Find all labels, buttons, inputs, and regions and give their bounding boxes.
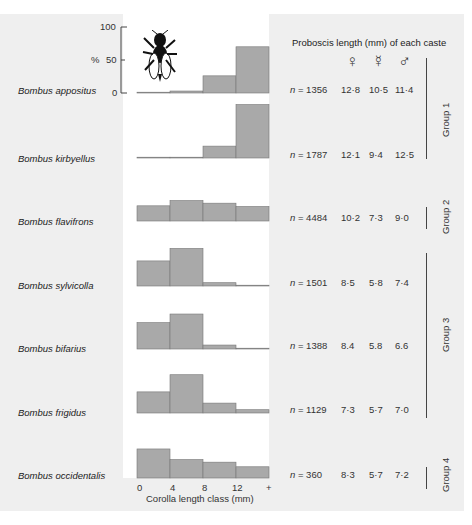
proboscis-value: 10·5 (369, 84, 388, 95)
proboscis-value: 7·0 (395, 404, 409, 415)
histogram-bar (236, 410, 269, 413)
proboscis-value: 12·1 (341, 149, 360, 160)
histogram-bar (236, 47, 269, 93)
proboscis-value: 11·4 (395, 84, 413, 95)
sample-size: n = 1356 (290, 84, 327, 95)
histogram-bar (170, 157, 203, 158)
histogram-bar (137, 92, 170, 93)
x-tick: 0 (137, 482, 142, 493)
proboscis-value: 7·3 (341, 404, 355, 415)
worker-symbol: ☿ (372, 52, 385, 72)
histogram-bar (137, 323, 170, 349)
proboscis-value: 12·8 (341, 84, 360, 95)
histogram-bar (137, 206, 170, 221)
species-label: Bombus kirbyellus (18, 153, 95, 164)
proboscis-value: 7·3 (369, 212, 383, 223)
species-label: Bombus flavifrons (18, 216, 94, 227)
histogram-bar (236, 348, 269, 349)
group-2-bracket (426, 207, 427, 229)
table-header: Proboscis length (mm) of each caste (292, 37, 446, 48)
queen-symbol: ♀ (346, 52, 359, 72)
group-4-bracket (426, 467, 427, 489)
x-tick: + (266, 482, 272, 493)
histogram-bar (236, 467, 269, 478)
proboscis-value: 8·3 (341, 469, 355, 480)
histogram-bar (203, 345, 236, 349)
sample-size: n = 4484 (290, 212, 327, 223)
histogram-bar (137, 392, 170, 413)
x-axis-label: Corolla length class (mm) (146, 493, 254, 504)
sample-size: n = 1388 (290, 340, 327, 351)
histogram-bar (203, 403, 236, 413)
sample-size: n = 1501 (290, 277, 327, 288)
histogram-bar (170, 201, 203, 221)
group-3-bracket (426, 253, 427, 418)
histogram-bar (137, 261, 170, 286)
proboscis-value: 5·8 (369, 277, 383, 288)
proboscis-value: 10·2 (341, 212, 360, 223)
species-label: Bombus sylvicolla (18, 280, 94, 291)
proboscis-value: 5·7 (369, 469, 383, 480)
histogram-bar (137, 157, 170, 158)
proboscis-value: 9·0 (395, 212, 409, 223)
histogram-bar (203, 146, 236, 158)
proboscis-value: 9·4 (369, 149, 383, 160)
species-label: Bombus frigidus (18, 407, 86, 418)
histogram-bar (203, 462, 236, 478)
group-4-label: Group 4 (440, 458, 451, 492)
histogram-bar (170, 91, 203, 93)
sample-size: n = 1129 (290, 404, 327, 415)
histogram-bar (170, 248, 203, 286)
proboscis-value: 7·2 (395, 469, 409, 480)
proboscis-value: 5·7 (369, 404, 383, 415)
sample-size: n = 1787 (290, 149, 327, 160)
x-tick: 4 (170, 482, 175, 493)
group-1-bracket (426, 58, 427, 159)
proboscis-value: 5.8 (369, 340, 382, 351)
histogram-bar (236, 285, 269, 286)
histogram-bar (203, 283, 236, 286)
species-label: Bombus appositus (18, 85, 96, 96)
male-symbol: ♂ (398, 52, 411, 72)
proboscis-value: 7·4 (395, 277, 409, 288)
histogram-bar (137, 449, 170, 478)
proboscis-value: 8·5 (341, 277, 355, 288)
histogram-bar (236, 206, 269, 221)
histogram-bar (170, 375, 203, 413)
histogram-bar (170, 314, 203, 349)
species-label: Bombus bifarius (18, 343, 86, 354)
x-tick: 8 (202, 482, 207, 493)
group-2-label: Group 2 (440, 200, 451, 234)
histogram-stack (0, 0, 472, 525)
x-tick: 12 (232, 482, 243, 493)
histogram-bar (203, 203, 236, 221)
proboscis-value: 8.4 (341, 340, 354, 351)
histogram-bar (236, 105, 269, 158)
histogram-bar (203, 76, 236, 93)
species-label: Bombus occidentalis (18, 470, 105, 481)
proboscis-value: 6.6 (395, 340, 408, 351)
group-1-label: Group 1 (440, 103, 451, 137)
proboscis-value: 12·5 (395, 149, 414, 160)
sample-size: n = 360 (290, 469, 322, 480)
histogram-bar (170, 460, 203, 478)
group-3-label: Group 3 (440, 318, 451, 352)
